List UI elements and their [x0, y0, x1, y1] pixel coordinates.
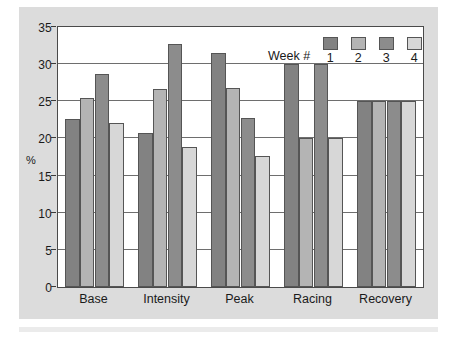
y-tick-mark	[51, 63, 56, 64]
y-tick-label: 25	[38, 95, 52, 109]
bar	[401, 101, 416, 287]
y-tick-mark	[51, 26, 56, 27]
legend-entries: 1234	[316, 37, 428, 65]
bar	[357, 101, 372, 287]
legend-label: 3	[383, 52, 390, 65]
legend-label: 1	[327, 52, 334, 65]
y-tick-label: 5	[45, 244, 52, 258]
bar	[211, 53, 226, 287]
bar	[80, 98, 95, 287]
bar	[182, 147, 197, 287]
y-tick-label: 30	[38, 58, 52, 72]
plot-area	[58, 27, 423, 287]
bar	[372, 101, 387, 287]
bar	[138, 133, 153, 288]
x-axis-tick-labels: BaseIntensityPeakRacingRecovery	[57, 292, 424, 312]
y-tick-label: 0	[45, 281, 52, 295]
x-tick-label: Intensity	[143, 292, 190, 306]
x-tick-label: Racing	[293, 292, 332, 306]
legend-item: 3	[372, 37, 400, 65]
y-tick-label: 10	[38, 207, 52, 221]
x-tick-label: Recovery	[359, 292, 412, 306]
bar	[168, 44, 183, 287]
y-tick-mark	[51, 137, 56, 138]
bar	[255, 156, 270, 287]
x-tick-label: Peak	[225, 292, 254, 306]
y-tick-mark	[51, 286, 56, 287]
bar	[95, 74, 110, 287]
panel-edge-strip	[19, 327, 438, 332]
bar	[387, 101, 402, 287]
legend-label: 2	[355, 52, 362, 65]
x-tick-label: Base	[79, 292, 108, 306]
legend-title: Week #	[268, 49, 310, 64]
legend-swatch	[407, 37, 422, 50]
y-tick-mark	[51, 249, 56, 250]
legend-swatch	[323, 37, 338, 50]
legend-item: 4	[400, 37, 428, 65]
y-tick-label: 35	[38, 21, 52, 35]
legend-label: 4	[411, 52, 418, 65]
bar	[314, 64, 329, 287]
y-tick-mark	[51, 212, 56, 213]
plot-frame	[57, 26, 424, 288]
figure: % 05101520253035 BaseIntensityPeakRacing…	[0, 0, 457, 339]
y-tick-label: 15	[38, 170, 52, 184]
bar	[65, 119, 80, 287]
bar	[284, 64, 299, 287]
y-axis-tick-labels: 05101520253035	[26, 26, 52, 288]
bar	[328, 138, 343, 287]
legend-item: 2	[344, 37, 372, 65]
y-tick-mark	[51, 100, 56, 101]
chart-legend: Week # 1234	[268, 28, 428, 64]
bar	[109, 123, 124, 287]
y-tick-label: 20	[38, 132, 52, 146]
bar	[153, 89, 168, 287]
bar	[226, 88, 241, 287]
legend-item: 1	[316, 37, 344, 65]
bar	[299, 138, 314, 287]
legend-swatch	[351, 37, 366, 50]
bar	[241, 118, 256, 287]
legend-swatch	[379, 37, 394, 50]
y-tick-mark	[51, 175, 56, 176]
